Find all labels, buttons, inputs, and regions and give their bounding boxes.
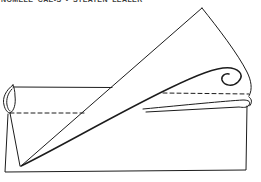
rolled-left-edge-inner-line	[7, 89, 12, 111]
rolled-left-edge	[3, 85, 15, 113]
fold-diagram	[0, 0, 261, 182]
ink-lines	[3, 8, 251, 172]
rolled-edge-to-corner-line	[10, 113, 20, 166]
layered-fold-edge	[143, 100, 250, 112]
base-sheet-outline	[5, 106, 247, 172]
sheet-top-edge-line	[13, 87, 112, 88]
flap-right-edge	[202, 8, 251, 96]
scanned-figure: NOMELE CAE-S - STEATEN LEALER	[0, 0, 261, 182]
fold-line-dashed-right	[163, 93, 249, 94]
flap-bottom-curve-and-curl	[21, 68, 241, 166]
